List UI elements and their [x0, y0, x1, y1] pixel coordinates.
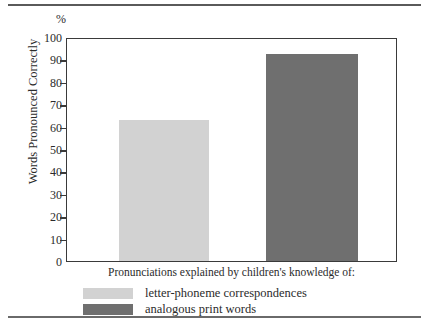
y-axis-tick-mark: [60, 195, 66, 197]
y-axis-tick-label: 70: [32, 99, 62, 111]
y-axis-tick-label: 80: [32, 77, 62, 89]
chart-legend: letter-phoneme correspondences analogous…: [83, 286, 307, 318]
y-axis-tick-mark: [60, 105, 66, 107]
y-axis-tick-label: 10: [32, 234, 62, 246]
bar-analogous-print-words: [266, 54, 358, 261]
legend-label-letter-phoneme-correspondences: letter-phoneme correspondences: [145, 286, 307, 301]
y-axis-tick-mark: [60, 60, 66, 62]
legend-item-analogous-print-words: analogous print words: [83, 302, 307, 316]
y-axis-tick-mark: [60, 83, 66, 85]
y-axis-tick-labels: 1009080706050403020100: [28, 38, 62, 262]
legend-swatch-light: [83, 288, 133, 299]
y-axis-tick-label: 50: [32, 144, 62, 156]
y-axis-tick-label: 30: [32, 189, 62, 201]
y-axis-tick-label: 60: [32, 122, 62, 134]
y-axis-tick-label: 0: [32, 256, 62, 268]
y-axis-tick-mark: [60, 240, 66, 242]
x-axis-caption: Pronunciations explained by children's k…: [66, 266, 397, 278]
y-axis-tick-label: 100: [32, 32, 62, 44]
y-axis-tick-mark: [60, 150, 66, 152]
bar-letter-phoneme-correspondences: [119, 120, 209, 261]
page-rule-top: [8, 4, 421, 6]
y-axis-tick-mark: [60, 128, 66, 130]
legend-swatch-dark: [83, 304, 133, 315]
figure-container: % Words Pronounced Correctly 10090807060…: [0, 0, 429, 335]
y-axis-tick-mark: [60, 172, 66, 174]
plot-area: [66, 38, 397, 262]
y-axis-unit-symbol: %: [42, 12, 66, 27]
legend-item-letter-phoneme-correspondences: letter-phoneme correspondences: [83, 286, 307, 300]
y-axis-tick-mark: [60, 217, 66, 219]
legend-label-analogous-print-words: analogous print words: [145, 302, 256, 317]
y-axis-tick-label: 90: [32, 54, 62, 66]
y-axis-tick-label: 20: [32, 211, 62, 223]
y-axis-tick-label: 40: [32, 166, 62, 178]
